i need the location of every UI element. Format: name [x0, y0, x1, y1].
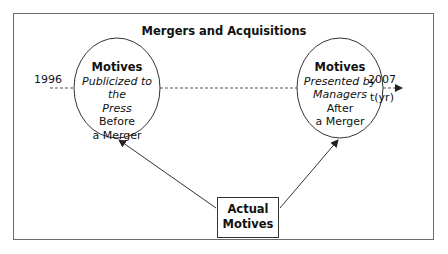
diagram-title: Mergers and Acquisitions [0, 24, 448, 38]
left-heading: Motives [72, 61, 162, 75]
timeline-start-label: 1996 [34, 73, 62, 86]
arrow-to-left-ellipse [119, 140, 216, 208]
left-line3: Before [72, 115, 162, 129]
box-line2: Motives [218, 217, 278, 232]
left-line4: a Merger [72, 129, 162, 143]
arrow-to-right-ellipse [280, 140, 338, 208]
box-line1: Actual [218, 202, 278, 217]
left-italic-line2: Press [72, 102, 162, 116]
right-line3: After [295, 102, 385, 116]
actual-motives-box: Actual Motives [217, 197, 279, 238]
right-italic-line2: Managers [295, 88, 385, 102]
right-line4: a Merger [295, 115, 385, 129]
left-italic-line1: Publicized to the [72, 75, 162, 102]
right-heading: Motives [295, 61, 385, 75]
right-ellipse-text: Motives Presented by Managers After a Me… [295, 61, 385, 129]
left-ellipse-text: Motives Publicized to the Press Before a… [72, 61, 162, 142]
right-italic-line1: Presented by [295, 75, 385, 89]
